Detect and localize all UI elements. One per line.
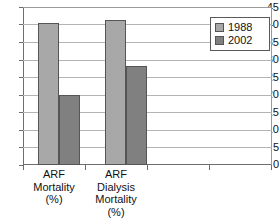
x-category-label-line: ARF [23,168,85,181]
x-tick-mark [209,165,210,170]
x-category-label-arf-mortality: ARF Mortality (%) [23,168,85,206]
legend-item-2002: 2002 [215,34,265,47]
legend-swatch-icon-1988 [215,23,224,32]
x-tick-mark [147,165,148,170]
plot-top-border [23,7,272,8]
legend-item-1988: 1988 [215,21,265,34]
x-category-label-line: (%) [85,206,147,219]
bar-1988-arf-dialysis-mortality [105,20,126,165]
x-category-label-line: Dialysis [85,181,147,194]
bar-chart: 45 40 35 30 25 20 15 10 5 0 ARF Mortalit… [0,0,279,223]
gridline-30 [23,60,272,61]
legend: 1988 2002 [210,17,270,51]
x-category-label-line: ARF [85,168,147,181]
bar-2002-arf-mortality [59,95,80,165]
bar-1988-arf-mortality [38,23,59,165]
x-category-label-line: Mortality [85,193,147,206]
x-category-label-line: (%) [23,193,85,206]
x-category-label-line: Mortality [23,181,85,194]
legend-swatch-icon-2002 [215,36,224,45]
legend-label-1988: 1988 [228,22,252,33]
bar-2002-arf-dialysis-mortality [126,66,147,165]
x-category-label-arf-dialysis-mortality: ARF Dialysis Mortality (%) [85,168,147,218]
x-tick-mark [271,165,272,170]
plot-right-border [271,7,272,165]
legend-label-2002: 2002 [228,35,252,46]
gridline-25 [23,77,272,78]
